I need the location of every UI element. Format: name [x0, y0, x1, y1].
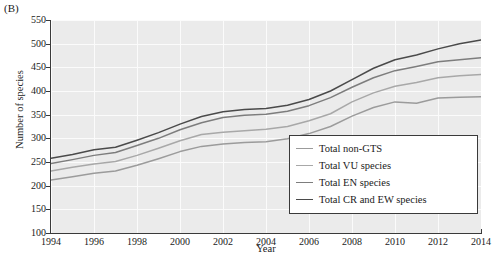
x-tick-label: 2006: [289, 237, 329, 247]
legend-line-swatch: [296, 165, 313, 166]
y-tick-label: 400: [0, 86, 46, 96]
legend-line-swatch: [296, 182, 313, 183]
y-tick-label: 200: [0, 181, 46, 191]
legend-item-label: Total EN species: [319, 177, 390, 189]
y-tick-label: 500: [0, 39, 46, 49]
x-tick-label: 2014: [461, 237, 492, 247]
x-tick-label: 1996: [74, 237, 114, 247]
legend-line-swatch: [296, 148, 313, 149]
legend-item: Total EN species: [296, 174, 471, 191]
chart-legend: Total non-GTSTotal VU speciesTotal EN sp…: [289, 135, 478, 214]
legend-line-swatch: [296, 199, 313, 200]
x-tick-label: 1994: [31, 237, 71, 247]
y-tick-label: 300: [0, 133, 46, 143]
legend-item: Total VU species: [296, 157, 471, 174]
legend-item: Total non-GTS: [296, 140, 471, 157]
y-tick-label: 150: [0, 204, 46, 214]
y-tick-label: 550: [0, 15, 46, 25]
y-tick-label: 350: [0, 110, 46, 120]
x-tick-label: 2002: [203, 237, 243, 247]
y-tick-label: 250: [0, 157, 46, 167]
legend-item-label: Total VU species: [319, 160, 391, 172]
x-tick-label: 2004: [246, 237, 286, 247]
x-tick-label: 2010: [375, 237, 415, 247]
x-tick-label: 1998: [117, 237, 157, 247]
legend-item: Total CR and EW species: [296, 191, 471, 208]
x-tick-label: 2012: [418, 237, 458, 247]
x-tick-label: 2000: [160, 237, 200, 247]
x-tick-label: 2008: [332, 237, 372, 247]
legend-item-label: Total non-GTS: [319, 143, 382, 155]
x-tick-mark: [481, 229, 482, 234]
panel-label: (B): [4, 2, 19, 14]
y-tick-label: 450: [0, 62, 46, 72]
figure-panel-b: (B) Number of species Year 1001502002503…: [0, 0, 492, 260]
legend-item-label: Total CR and EW species: [319, 194, 427, 206]
